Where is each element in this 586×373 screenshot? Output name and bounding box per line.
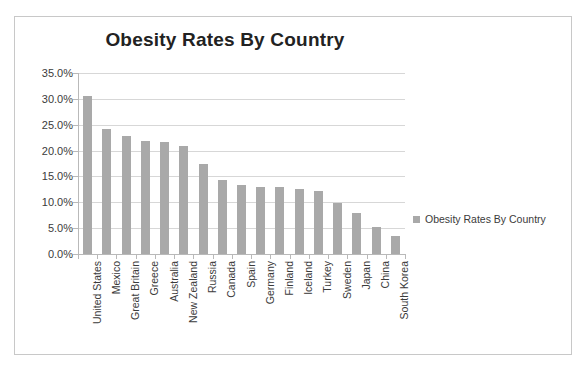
x-axis-category-label: Russia [207,261,217,293]
y-axis-tick-mark [73,176,78,177]
x-axis-tick-mark [270,255,271,259]
x-axis-category-label: Sweden [342,261,352,299]
y-axis-tick-mark [73,73,78,74]
plot-area [78,73,405,254]
bar[interactable] [295,189,304,254]
x-axis-tick-mark [174,255,175,259]
x-axis-tick-mark [155,255,156,259]
bar[interactable] [352,213,361,254]
chart-title: Obesity Rates By Country [15,29,435,51]
bar[interactable] [237,185,246,254]
bar[interactable] [160,142,169,254]
y-axis-tick-label: 15.0% [27,170,73,182]
y-axis-tick-label: 25.0% [27,119,73,131]
legend-swatch-icon [413,216,420,223]
x-axis-category-label: Australia [169,261,179,302]
x-axis-tick-mark [290,255,291,259]
y-axis-tick-mark [73,202,78,203]
x-axis-tick-mark [116,255,117,259]
x-axis-category-label: Japan [361,261,371,290]
bar[interactable] [275,187,284,254]
legend-label: Obesity Rates By Country [425,213,546,225]
x-axis-tick-mark [213,255,214,259]
bar[interactable] [83,96,92,254]
bar[interactable] [333,203,342,254]
bar[interactable] [122,136,131,254]
chart-frame: Obesity Rates By Country 35.0%30.0%25.0%… [14,16,572,355]
x-axis-category-label: Iceland [303,261,313,295]
y-axis-tick-label: 10.0% [27,196,73,208]
y-axis-tick-label: 30.0% [27,93,73,105]
x-axis-tick-mark [405,255,406,259]
x-axis-tick-mark [309,255,310,259]
x-axis-category-label: United States [92,261,102,324]
bar[interactable] [372,227,381,254]
y-axis-tick-label: 20.0% [27,145,73,157]
x-axis-tick-mark [78,255,79,259]
bar[interactable] [199,164,208,255]
bar-series [78,73,405,254]
x-axis-line [78,254,406,255]
x-axis-category-label: Great Britain [130,261,140,320]
x-axis-tick-mark [367,255,368,259]
bar[interactable] [179,146,188,254]
bar[interactable] [314,191,323,254]
x-axis-category-label: South Korea [399,261,409,319]
x-axis-category-label: Greece [149,261,159,295]
y-axis-tick-mark [73,228,78,229]
x-axis-category-label: Finland [284,261,294,295]
x-axis-category-label: Spain [246,261,256,288]
x-axis-tick-mark [232,255,233,259]
x-axis-tick-mark [193,255,194,259]
x-axis-category-label: New Zealand [188,261,198,323]
y-axis-tick-mark [73,99,78,100]
x-axis-tick-mark [97,255,98,259]
bar[interactable] [256,187,265,254]
x-axis-category-label: China [380,261,390,288]
bar[interactable] [141,141,150,254]
x-axis-category-label: Canada [226,261,236,298]
x-axis-tick-mark [251,255,252,259]
x-axis-tick-mark [386,255,387,259]
y-axis-tick-mark [73,125,78,126]
bar[interactable] [218,180,227,254]
x-axis-tick-mark [328,255,329,259]
y-axis-line [78,73,79,255]
x-axis-tick-mark [347,255,348,259]
y-axis-tick-labels: 35.0%30.0%25.0%20.0%15.0%10.0%5.0%0.0% [21,17,73,356]
y-axis-tick-label: 0.0% [27,248,73,260]
y-axis-tick-label: 35.0% [27,67,73,79]
bar[interactable] [102,129,111,254]
bar[interactable] [391,236,400,254]
x-axis-category-label: Turkey [322,261,332,293]
x-axis-category-label: Mexico [111,261,121,294]
y-axis-tick-mark [73,151,78,152]
y-axis-tick-label: 5.0% [27,222,73,234]
x-axis-category-label: Germany [265,261,275,304]
x-axis-tick-mark [136,255,137,259]
chart-legend: Obesity Rates By Country [413,213,546,225]
